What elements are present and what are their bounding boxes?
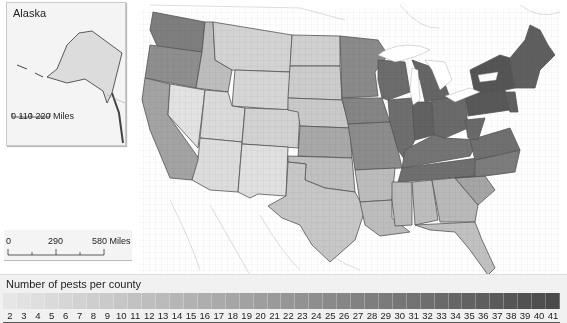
legend-bin-label: 40 — [532, 310, 546, 322]
legend-bin-label: 34 — [449, 310, 463, 322]
legend-bin — [323, 293, 337, 309]
legend-bin — [184, 293, 198, 309]
legend-bin — [73, 293, 87, 309]
legend-bin — [351, 293, 365, 309]
scale-label-0: 0 — [6, 236, 11, 246]
legend-bin-label: 28 — [365, 310, 379, 322]
legend-bin — [504, 293, 518, 309]
legend-bin — [156, 293, 170, 309]
legend-bin-label: 7 — [73, 310, 87, 322]
legend-bin — [268, 293, 282, 309]
legend-bin — [87, 293, 101, 309]
legend-bin-label: 31 — [407, 310, 421, 322]
legend-bin-label: 35 — [462, 310, 476, 322]
legend-bin — [114, 293, 128, 309]
legend-bin-label: 4 — [31, 310, 45, 322]
legend-bin — [254, 293, 268, 309]
legend-bin — [462, 293, 476, 309]
county-grid-overlay — [140, 10, 560, 280]
legend-bin — [337, 293, 351, 309]
legend-bin — [476, 293, 490, 309]
legend-bin — [100, 293, 114, 309]
legend-bin-label: 15 — [184, 310, 198, 322]
legend-bin-label: 3 — [17, 310, 31, 322]
legend-bin-label: 11 — [128, 310, 142, 322]
legend-bin-label: 39 — [518, 310, 532, 322]
legend-bin-label: 30 — [393, 310, 407, 322]
legend-bin-label: 20 — [254, 310, 268, 322]
legend-bin-label: 16 — [198, 310, 212, 322]
legend-bin-label: 5 — [45, 310, 59, 322]
legend-bin — [142, 293, 156, 309]
legend-bin — [170, 293, 184, 309]
legend-bin — [128, 293, 142, 309]
legend-color-ramp — [3, 293, 560, 309]
alaska-inset: Alaska 0 110 220 Miles — [6, 2, 126, 146]
legend-bin-label: 2 — [3, 310, 17, 322]
legend-bin — [17, 293, 31, 309]
legend-bin — [365, 293, 379, 309]
legend-bin-label: 6 — [59, 310, 73, 322]
legend-bin — [449, 293, 463, 309]
legend-bin-label: 9 — [100, 310, 114, 322]
scale-label-290: 290 — [48, 236, 63, 246]
legend: Number of pests per county 2345678910111… — [0, 274, 567, 323]
legend-bin — [393, 293, 407, 309]
legend-bin-label: 10 — [114, 310, 128, 322]
legend-bin — [212, 293, 226, 309]
legend-bin-label: 13 — [156, 310, 170, 322]
legend-bin-label: 24 — [309, 310, 323, 322]
alaska-scale-bar — [11, 112, 51, 118]
legend-bin-label: 41 — [546, 310, 560, 322]
legend-bin — [295, 293, 309, 309]
legend-bin-label: 25 — [323, 310, 337, 322]
legend-bin-label: 12 — [142, 310, 156, 322]
legend-bin — [31, 293, 45, 309]
alaska-scale-label: 0 110 220 Miles — [11, 111, 74, 121]
legend-bin-label: 14 — [170, 310, 184, 322]
legend-bin — [379, 293, 393, 309]
legend-bin-label: 33 — [435, 310, 449, 322]
legend-bin — [518, 293, 532, 309]
legend-bin — [198, 293, 212, 309]
legend-bin-label: 17 — [212, 310, 226, 322]
legend-bin-label: 27 — [351, 310, 365, 322]
legend-bin-label: 32 — [421, 310, 435, 322]
legend-bin-label: 18 — [226, 310, 240, 322]
legend-bin-label: 23 — [295, 310, 309, 322]
legend-bin — [407, 293, 421, 309]
legend-bin-label: 8 — [87, 310, 101, 322]
legend-bin — [226, 293, 240, 309]
legend-bin — [3, 293, 17, 309]
legend-bin — [59, 293, 73, 309]
legend-bin-label: 26 — [337, 310, 351, 322]
legend-bin-label: 36 — [476, 310, 490, 322]
legend-bin-label: 19 — [240, 310, 254, 322]
legend-bin-label: 38 — [504, 310, 518, 322]
map-scale-bar: 0 290 580 Miles — [4, 230, 132, 261]
legend-bin-label: 29 — [379, 310, 393, 322]
alaska-map — [7, 3, 125, 145]
legend-bin-label: 22 — [281, 310, 295, 322]
legend-bin-label: 21 — [268, 310, 282, 322]
legend-bin — [546, 293, 560, 309]
legend-bin — [421, 293, 435, 309]
legend-bin — [281, 293, 295, 309]
legend-bin — [309, 293, 323, 309]
scale-bar-ticks — [4, 247, 132, 259]
legend-bin — [490, 293, 504, 309]
legend-bin — [45, 293, 59, 309]
legend-title: Number of pests per county — [6, 278, 141, 290]
legend-bin-label: 37 — [490, 310, 504, 322]
legend-bin — [532, 293, 546, 309]
scale-label-580: 580 Miles — [92, 236, 131, 246]
legend-labels: 2345678910111213141516171819202122232425… — [3, 310, 560, 323]
legend-bin — [240, 293, 254, 309]
legend-bin — [435, 293, 449, 309]
